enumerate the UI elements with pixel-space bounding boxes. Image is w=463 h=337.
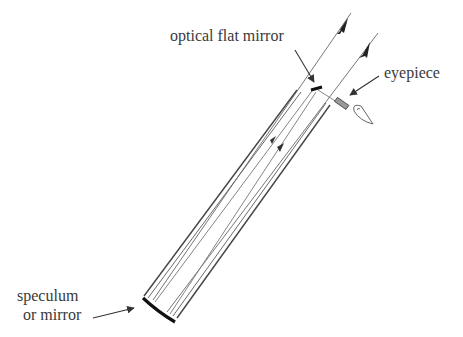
speculum-label-line1: speculum [17,287,78,305]
eyepiece-arrow [350,76,379,95]
reflected-rays [155,91,316,314]
incoming-rays [153,13,378,312]
speculum-arrow [93,308,134,318]
flat-mirror-arrow [295,50,314,82]
optical-flat-mirror [311,87,322,90]
speculum-label-line2: or mirror [23,306,81,324]
optical-flat-mirror-label: optical flat mirror [170,27,284,45]
eyepiece-label: eyepiece [384,64,440,82]
speculum-mirror [143,298,175,322]
tube-right-wall [173,103,330,318]
incoming-ray-arrowheads [337,18,370,58]
eye-icon [354,105,373,124]
eyepiece-tube [335,97,349,109]
tube-left-wall [144,90,301,298]
